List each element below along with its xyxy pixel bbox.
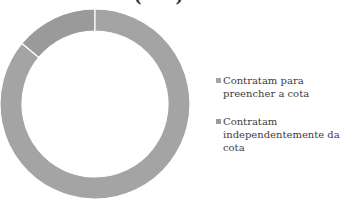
legend-label: Contratam para preencher a cota bbox=[223, 75, 309, 99]
donut-slice bbox=[22, 9, 95, 57]
legend-marker-icon bbox=[216, 78, 221, 83]
legend-marker-icon bbox=[216, 119, 221, 124]
legend-item-independente-cota: Contratam independentemente da cota bbox=[216, 115, 356, 154]
donut-chart bbox=[0, 9, 190, 199]
chart-legend: Contratam para preencher a cota Contrata… bbox=[216, 74, 356, 154]
title-paren-right: ) bbox=[176, 0, 184, 6]
chart-title-clipped: () bbox=[134, 0, 194, 7]
legend-label: Contratam independentemente da cota bbox=[223, 116, 340, 153]
donut-svg bbox=[0, 9, 190, 199]
title-paren-left: ( bbox=[134, 0, 142, 6]
legend-item-preencher-cota: Contratam para preencher a cota bbox=[216, 74, 356, 100]
